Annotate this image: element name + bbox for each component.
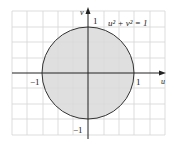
- v-axis-label: v: [80, 8, 84, 17]
- tick-label-v-neg: −1: [73, 125, 83, 135]
- u-axis-label: u: [161, 77, 165, 86]
- tick-label-v-pos: 1: [93, 16, 98, 26]
- equation-label: u² + v² = 1: [108, 18, 148, 28]
- v-axis-arrow-icon: [86, 7, 91, 14]
- tick-label-u-pos: 1: [136, 77, 141, 87]
- unit-disk-diagram: v u 1 −1 −1 1 u² + v² = 1: [0, 0, 172, 147]
- tick-label-u-neg: −1: [30, 77, 40, 87]
